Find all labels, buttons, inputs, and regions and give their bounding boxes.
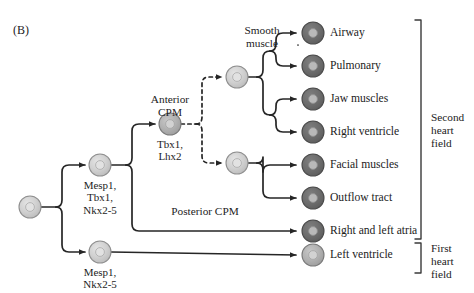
- second-heart-field-bracket-label: Second heart field: [431, 111, 464, 151]
- lineage-diagram: [0, 0, 474, 293]
- terminal-right-left-atria: [302, 220, 324, 242]
- lower-bifurcation-progenitor: [226, 152, 248, 174]
- terminal-pulmonary-label: Pulmonary: [330, 59, 381, 72]
- terminal-facial-muscles: [302, 154, 324, 176]
- terminal-outflow-tract-label: Outflow tract: [330, 191, 392, 204]
- edge-to-right-ventricle: [270, 115, 296, 132]
- terminal-outflow-tract: [302, 187, 324, 209]
- terminal-pulmonary: [302, 55, 324, 77]
- edge-upper-upperpair: [257, 51, 270, 77]
- edge-dashed-to-upper: [196, 77, 222, 124]
- edge-cpm-to-anterior: [126, 124, 155, 165]
- first-heart-field-progenitor: [89, 241, 111, 263]
- edge-upper-lowerpair: [257, 77, 270, 115]
- upper-bifurcation-progenitor: [226, 66, 248, 88]
- terminal-left-ventricle: [302, 244, 324, 266]
- terminal-airway-label: Airway: [330, 26, 365, 39]
- terminal-jaw-muscles-label: Jaw muscles: [330, 92, 388, 105]
- terminal-jaw-muscles: [302, 88, 324, 110]
- cardiopharyngeal-mesoderm-progenitor: [89, 154, 111, 176]
- first-heart-field-bracket: [415, 243, 421, 273]
- second-heart-field-bracket: [415, 20, 421, 239]
- anterior-cpm-progenitor-genes: Tbx1, Lhx2: [157, 138, 183, 163]
- edge-root-to-fhf: [56, 207, 85, 252]
- terminal-right-ventricle-label: Right ventricle: [330, 125, 399, 138]
- root-progenitor: [19, 196, 41, 218]
- edge-to-pulmonary: [270, 51, 296, 66]
- first-heart-field-progenitor-genes: Mesp1, Nkx2-5: [83, 266, 117, 291]
- edge-to-jaw-muscles: [270, 99, 296, 115]
- terminal-right-ventricle: [302, 121, 324, 143]
- terminal-facial-muscles-label: Facial muscles: [330, 158, 399, 171]
- edge-dashed-to-lower: [196, 124, 222, 163]
- cardiopharyngeal-mesoderm-progenitor-genes: Mesp1, Tbx1, Nkx2-5: [83, 179, 117, 216]
- terminal-left-ventricle-label: Left ventricle: [330, 248, 393, 261]
- edge-fhf-to-left-ventricle: [111, 252, 296, 255]
- posterior-cpm-label: Posterior CPM: [171, 205, 238, 218]
- smooth-muscle-label: Smooth muscle: [244, 24, 279, 49]
- edge-to-outflow-tract: [257, 163, 296, 198]
- figure-panel-b: Mesp1, Tbx1, Nkx2-5Mesp1, Nkx2-5Tbx1, Lh…: [0, 0, 474, 293]
- anterior-cpm-label: Anterior CPM: [151, 93, 189, 118]
- edge-root-to-cpm: [56, 165, 85, 207]
- panel-label: (B): [13, 24, 29, 37]
- terminal-right-left-atria-label: Right and left atria: [330, 224, 417, 237]
- first-heart-field-bracket-label: First heart field: [431, 242, 454, 282]
- terminal-airway: [302, 22, 324, 44]
